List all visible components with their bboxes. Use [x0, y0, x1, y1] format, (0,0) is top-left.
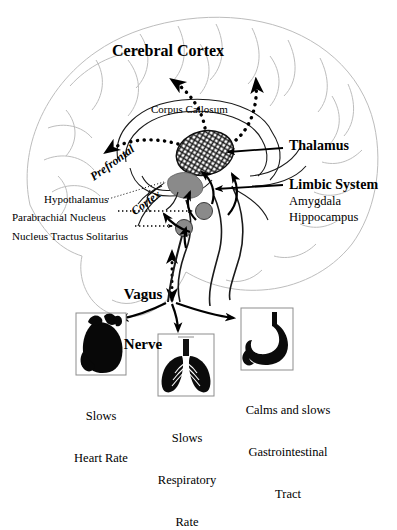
corpus-callosum-label: Corpus Callosum [151, 103, 228, 115]
stomach-caption-line1: Calms and slows [226, 403, 350, 417]
lungs-caption-line2: Respiratory [143, 473, 231, 487]
heart-caption: Slows Heart Rate [58, 381, 144, 493]
hypothalamus-label: Hypothalamus [44, 193, 108, 205]
lungs-caption-line1: Slows [143, 431, 231, 445]
stomach-caption-line3: Tract [226, 487, 350, 501]
hippocampus-label: Hippocampus [289, 210, 358, 224]
branch-to-stomach [176, 303, 234, 318]
amygdala-label: Amygdala [289, 194, 341, 208]
heart-caption-line2: Heart Rate [58, 451, 144, 465]
prefrontal-cortex-line1: Prefrontal [86, 141, 138, 185]
prefrontal-cortex-line2: Cortex [117, 183, 169, 227]
limbic-system-label: Limbic System [289, 177, 378, 193]
thalamus-label: Thalamus [289, 138, 349, 154]
parabrachial-nucleus-label: Parabrachial Nucleus [12, 211, 106, 223]
vagus-nerve-line2: Nerve [113, 336, 173, 353]
lungs-caption: Slows Respiratory Rate [143, 403, 231, 530]
arrow-thalamus-to-cortex-right [236, 80, 256, 140]
vagus-nerve-label: Vagus Nerve [113, 252, 173, 386]
leader-limbic-system [216, 185, 283, 189]
nucleus-tractus-solitarius-label: Nucleus Tractus Solitarius [12, 230, 128, 242]
leader-thalamus [228, 148, 283, 152]
stomach-caption-line2: Gastrointestinal [226, 445, 350, 459]
arrow-vagus-to-nts [185, 228, 187, 248]
lungs-caption-line3: Rate [143, 515, 231, 529]
vagus-nerve-line1: Vagus [113, 286, 173, 303]
heart-caption-line1: Slows [58, 409, 144, 423]
stomach-caption: Calms and slows Gastrointestinal Tract [226, 375, 350, 529]
cerebral-cortex-label: Cerebral Cortex [112, 42, 224, 60]
parabrachial-nucleus-node [196, 203, 213, 220]
